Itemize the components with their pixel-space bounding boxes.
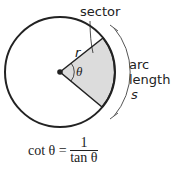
bracket-tick-top [110,25,118,31]
bracket-tick-bottom [110,113,118,119]
length-label: length [129,73,170,87]
arc-length-bracket [114,28,130,116]
s-label: s [131,88,138,102]
cotangent-formula: cot θ = 1 tan θ [28,136,98,165]
angle-label: θ [76,65,82,79]
denominator: tan θ [70,151,97,165]
center-point [57,69,63,75]
sector-label: sector [80,5,120,19]
radius-label: r [75,46,80,60]
sector-shape [60,38,115,107]
arc-label: arc [129,58,149,72]
formula-lhs: cot θ = [28,143,67,158]
fraction: 1 tan θ [70,136,97,165]
numerator: 1 [70,136,97,151]
